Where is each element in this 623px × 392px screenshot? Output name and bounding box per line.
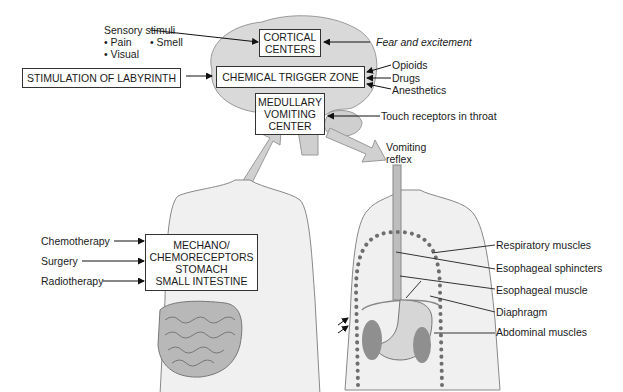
mechano-line-3: STOMACH: [175, 263, 227, 275]
medullary-vomiting-center-box: MEDULLARY VOMITING CENTER: [255, 93, 325, 135]
labyrinth-box: STIMULATION OF LABYRINTH: [22, 68, 181, 88]
medullary-line-1: MEDULLARY: [258, 96, 322, 108]
ctz-input-drugs: Drugs: [392, 72, 420, 84]
mechano-line-2: CHEMORECEPTORS: [149, 251, 253, 263]
sensory-item-pain: • Pain: [104, 36, 132, 48]
ctz-input-anesthetics: Anesthetics: [392, 84, 446, 96]
gut-input-surgery: Surgery: [41, 255, 78, 267]
vomiting-reflex-line-1: Vomiting: [386, 141, 426, 153]
sensory-item-visual: • Visual: [104, 48, 139, 60]
gut-input-chemotherapy: Chemotherapy: [41, 235, 110, 247]
cortical-line-2: CENTERS: [265, 43, 315, 55]
sensory-item-smell: • Smell: [150, 36, 183, 48]
mechano-line-4: SMALL INTESTINE: [156, 275, 248, 287]
muscle-label-esophageal-sphincters: Esophageal sphincters: [496, 262, 602, 274]
muscle-label-diaphragm: Diaphragm: [496, 306, 547, 318]
cortical-line-1: CORTICAL: [264, 31, 317, 43]
mechano-line-1: MECHANO/: [173, 239, 230, 251]
fear-label: Fear and excitement: [376, 36, 472, 48]
muscle-label-abdominal: Abdominal muscles: [496, 326, 587, 338]
medullary-line-2: VOMITING: [264, 108, 316, 120]
vomiting-reflex-line-2: reflex: [386, 153, 412, 165]
muscle-label-respiratory: Respiratory muscles: [496, 239, 591, 251]
sensory-stimuli-heading: Sensory stimuli: [104, 24, 175, 36]
mechano-chemoreceptors-box: MECHANO/ CHEMORECEPTORS STOMACH SMALL IN…: [145, 234, 258, 291]
ctz-box: CHEMICAL TRIGGER ZONE: [216, 66, 365, 88]
touch-receptors-label: Touch receptors in throat: [381, 110, 497, 122]
medullary-line-3: CENTER: [268, 120, 311, 132]
cortical-centers-box: CORTICAL CENTERS: [259, 29, 321, 57]
ctz-input-opioids: Opioids: [392, 59, 428, 71]
gut-input-radiotherapy: Radiotherapy: [41, 275, 103, 287]
muscle-label-esophageal-muscle: Esophageal muscle: [496, 284, 588, 296]
